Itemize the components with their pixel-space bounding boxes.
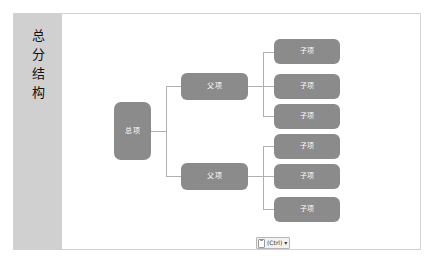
- smartart-diagram[interactable]: 总项 父项 父项 子项 子项 子项 子项 子项 子项: [62, 13, 421, 250]
- diagram-node-parent-1-label: 父项: [207, 83, 222, 90]
- side-panel-title: 总 分 结 构: [14, 26, 62, 102]
- diagram-node-child-3-label: 子项: [300, 113, 315, 120]
- chevron-down-icon: ▾: [284, 240, 287, 246]
- clipboard-icon: [258, 239, 265, 248]
- diagram-node-child-1-label: 子项: [300, 48, 315, 55]
- diagram-node-child-5-label: 子项: [300, 173, 315, 180]
- diagram-node-parent-1[interactable]: 父项: [181, 73, 248, 100]
- diagram-node-child-4[interactable]: 子项: [274, 134, 340, 159]
- screenshot-root: 总 分 结 构: [0, 0, 435, 263]
- diagram-node-child-6-label: 子项: [300, 206, 315, 213]
- diagram-node-child-5[interactable]: 子项: [274, 164, 340, 189]
- diagram-node-root[interactable]: 总项: [114, 102, 151, 160]
- diagram-node-parent-2-label: 父项: [207, 173, 222, 180]
- diagram-node-child-2[interactable]: 子项: [274, 74, 340, 99]
- side-label-panel: 总 分 结 构: [14, 14, 62, 250]
- diagram-node-root-label: 总项: [125, 128, 140, 135]
- diagram-node-child-3[interactable]: 子项: [274, 104, 340, 129]
- diagram-node-child-1[interactable]: 子项: [274, 39, 340, 64]
- diagram-node-child-4-label: 子项: [300, 143, 315, 150]
- paste-options-button[interactable]: (Ctrl) ▾: [256, 237, 290, 249]
- diagram-node-child-2-label: 子项: [300, 83, 315, 90]
- paste-options-label: (Ctrl): [267, 240, 282, 246]
- diagram-node-parent-2[interactable]: 父项: [181, 163, 248, 190]
- diagram-node-child-6[interactable]: 子项: [274, 197, 340, 222]
